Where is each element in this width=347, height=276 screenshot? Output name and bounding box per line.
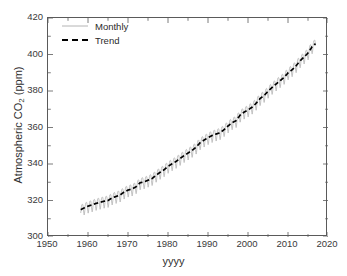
legend-entry-monthly: Monthly: [62, 19, 158, 33]
y-tick-label: 360: [27, 122, 43, 132]
legend-entry-trend: Trend: [62, 33, 158, 47]
legend-swatch-monthly: [62, 21, 88, 31]
trend-series-line: [81, 44, 316, 210]
y-axis-title-post: (ppm): [12, 67, 24, 99]
x-axis-title: yyyy: [0, 255, 347, 267]
co2-chart-figure: 300320340360380400420 Monthly Trend 1950…: [0, 0, 347, 276]
y-tick-label: 380: [27, 85, 43, 95]
y-axis-title: Atmospheric CO2 (ppm): [12, 20, 26, 230]
legend-label-monthly: Monthly: [95, 21, 128, 32]
plot-area: [47, 17, 327, 236]
y-tick-label: 320: [27, 195, 43, 205]
legend-label-trend: Trend: [95, 35, 119, 46]
y-tick-label: 400: [27, 49, 43, 59]
plot-svg: [48, 18, 328, 237]
y-axis-title-pre: Atmospheric CO: [12, 103, 24, 184]
x-tick-label: 2020: [302, 239, 347, 249]
tick-marks: [48, 18, 328, 237]
legend-swatch-trend: [62, 35, 88, 45]
chart-legend: Monthly Trend: [62, 19, 158, 47]
y-axis-title-sub: 2: [17, 98, 26, 102]
y-tick-label: 420: [27, 12, 43, 22]
y-tick-label: 340: [27, 158, 43, 168]
x-axis-tick-labels: 19501960197019801990200020102020: [0, 239, 347, 253]
monthly-series-line: [81, 40, 316, 215]
